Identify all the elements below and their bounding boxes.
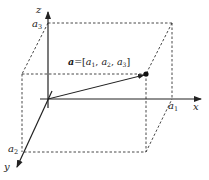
bounding-box-edges (22, 23, 172, 152)
y-axis-label: y (3, 161, 10, 172)
vector-a (48, 75, 144, 99)
z-axis-label: z (35, 4, 42, 15)
edge-top-left (22, 23, 48, 74)
a1-label: a1 (168, 100, 178, 113)
a2-label: a2 (8, 143, 18, 156)
vector-endpoint (143, 71, 148, 76)
x-axis-label: x (193, 101, 199, 112)
coordinate-diagram: z x y a3 a1 a2 a=[a1, a2, a3] (0, 0, 209, 180)
vector-label: a=[a1, a2, a3] (68, 56, 130, 68)
edge-top-right (146, 23, 172, 74)
a3-label: a3 (32, 18, 42, 31)
axes (17, 12, 201, 167)
